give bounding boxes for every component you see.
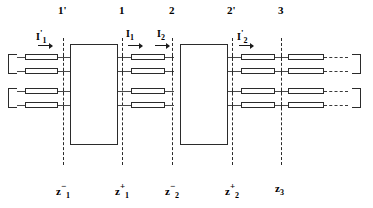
line-section-right-outer-row-3 [288, 88, 324, 94]
z-subscript: 1 [125, 191, 129, 200]
line-section-right-inner-row-4 [241, 102, 275, 108]
plane-crossing-tick-1-row-1 [122, 54, 123, 61]
current-arrow-i2 [155, 45, 169, 46]
network-block-a [70, 44, 118, 145]
dashed-continuation-row-1 [324, 57, 348, 58]
network-block-b [180, 44, 228, 145]
line-section-mid-row-1 [131, 54, 165, 60]
plane-name-2: 2 [169, 5, 175, 16]
dashed-continuation-row-4 [324, 105, 348, 106]
plane-name-1-prime: 1' [58, 5, 67, 16]
plane-crossing-tick-2p-row-2 [232, 68, 233, 75]
plane-name-3: 3 [278, 5, 284, 16]
plane-crossing-tick-2-row-1 [172, 54, 173, 61]
current-subscript: 2 [161, 33, 165, 42]
plane-crossing-tick-2p-row-1 [232, 54, 233, 61]
line-section-mid-row-4 [131, 102, 165, 108]
line-section-left-row-2 [25, 68, 58, 74]
z-superscript: − [61, 181, 66, 191]
plane-crossing-tick-1-row-2 [122, 68, 123, 75]
right-port-lower-terminator [352, 88, 361, 108]
current-subscript: 2 [243, 36, 247, 45]
current-arrow-i1 [128, 45, 142, 46]
z-label-2-minus: z−2 [165, 183, 179, 200]
plane-name-1: 1 [119, 5, 125, 16]
line-section-left-row-4 [25, 102, 58, 108]
line-section-right-outer-row-2 [288, 68, 324, 74]
line-section-right-inner-row-2 [241, 68, 275, 74]
z-superscript: + [120, 181, 125, 191]
plane-crossing-tick-3-row-1 [281, 54, 282, 61]
z-subscript: 1 [66, 191, 70, 200]
z-superscript: + [230, 181, 235, 191]
line-section-right-inner-row-3 [241, 88, 275, 94]
plane-crossing-tick-3-row-3 [281, 88, 282, 95]
plane-crossing-tick-2p-row-3 [232, 88, 233, 95]
current-subscript: 1 [130, 33, 134, 42]
line-section-right-outer-row-4 [288, 102, 324, 108]
line-section-right-outer-row-1 [288, 54, 324, 60]
plane-crossing-tick-3-row-2 [281, 68, 282, 75]
left-port-upper-terminator [8, 54, 17, 74]
current-arrow-i2-prime [239, 45, 253, 46]
plane-name-2-prime: 2' [227, 5, 236, 16]
current-label-i1-prime: I'1 [36, 29, 46, 45]
current-label-i1: I1 [126, 29, 134, 42]
current-label-i2-prime: I'2 [237, 29, 247, 45]
z-superscript: − [170, 181, 175, 191]
line-section-mid-row-3 [131, 88, 165, 94]
network-reference-plane-diagram: 1' 1 2 2' 3 I'1 I1 I2 I'2 [0, 0, 373, 208]
z-subscript: 3 [280, 188, 284, 197]
current-label-i2: I2 [157, 29, 165, 42]
line-section-mid-row-2 [131, 68, 165, 74]
right-port-upper-terminator [352, 54, 361, 74]
line-section-left-row-3 [25, 88, 58, 94]
z-label-3: z3 [275, 183, 284, 197]
z-subscript: 2 [235, 191, 239, 200]
current-arrow-i1-prime [38, 45, 52, 46]
dashed-continuation-row-2 [324, 71, 348, 72]
line-section-right-inner-row-1 [241, 54, 275, 60]
plane-crossing-tick-2-row-2 [172, 68, 173, 75]
z-label-1-minus: z−1 [56, 183, 70, 200]
z-subscript: 2 [175, 191, 179, 200]
plane-crossing-tick-2p-row-4 [232, 102, 233, 109]
z-label-2-plus: z+2 [225, 183, 239, 200]
left-port-lower-terminator [8, 88, 17, 108]
dashed-continuation-row-3 [324, 91, 348, 92]
current-subscript: 1 [42, 36, 46, 45]
line-section-left-row-1 [25, 54, 58, 60]
plane-crossing-tick-3-row-4 [281, 102, 282, 109]
z-label-1-plus: z+1 [115, 183, 129, 200]
